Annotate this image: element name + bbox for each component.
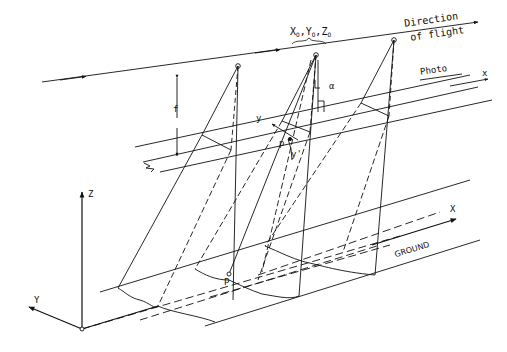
ground-Z-axis-label: Z: [88, 189, 93, 199]
ground-point-label: P: [224, 277, 229, 287]
alpha-label: α: [329, 81, 334, 91]
image-point-p: [288, 137, 291, 140]
ground-Y-axis-label: Y: [34, 295, 39, 305]
nadir-line: [318, 60, 324, 112]
photogrammetry-diagram: [0, 0, 507, 352]
Y-axis: [29, 307, 82, 329]
photo-x-axis-label: x: [482, 68, 487, 78]
world-axes: [29, 192, 456, 331]
focal-length-label: f: [173, 104, 178, 114]
ground-plane: [82, 180, 480, 329]
photo-x-axis: [450, 79, 488, 86]
exposure-stations: [236, 38, 397, 69]
y-prime-label: y': [291, 149, 302, 159]
photo-y-axis-label: y: [256, 113, 261, 123]
alpha-marker: [315, 80, 320, 88]
X-axis: [372, 219, 456, 245]
ground-point-P: [227, 272, 231, 276]
image-point-label: p: [279, 138, 284, 148]
ground-rays: [118, 55, 389, 306]
station-brace: [292, 38, 326, 44]
ground-X-axis-label: X: [450, 204, 455, 214]
exposure-station-label: XO,YO,ZO: [290, 26, 331, 37]
